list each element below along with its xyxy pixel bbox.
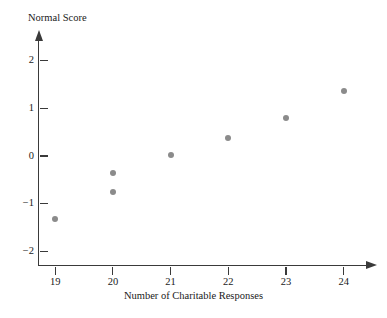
data-point (52, 216, 58, 222)
data-point (110, 170, 116, 176)
x-axis-tick-label: 21 (156, 277, 186, 288)
x-axis-tick-mark (228, 267, 229, 275)
data-point (225, 135, 231, 141)
y-axis-tick-label: 2 (8, 55, 34, 66)
y-axis-tick-mark (40, 251, 48, 252)
y-axis-tick-label: 1 (8, 103, 34, 114)
x-axis-line (38, 265, 368, 266)
y-axis-tick-label: 0 (8, 151, 34, 162)
x-axis-title: Number of Charitable Responses (0, 290, 387, 301)
y-axis-arrow-icon (35, 30, 43, 41)
x-axis-tick-label: 20 (98, 277, 128, 288)
y-axis-title: Normal Score (28, 12, 87, 23)
x-axis-tick-label: 24 (329, 277, 359, 288)
data-point (110, 189, 116, 195)
data-point (341, 88, 347, 94)
x-axis-tick-mark (343, 267, 344, 275)
x-axis-tick-label: 23 (271, 277, 301, 288)
x-axis-arrow-icon (366, 261, 377, 269)
y-axis-tick-mark (40, 60, 48, 61)
y-axis-tick-mark (40, 155, 48, 156)
y-axis-tick-label: −1 (8, 198, 34, 209)
y-axis-tick-label: −2 (8, 246, 34, 257)
scatter-plot-figure: Normal Score 210−1−2 192021222324 Number… (0, 0, 387, 318)
x-axis-tick-mark (170, 267, 171, 275)
y-axis-line (38, 40, 39, 266)
data-point (168, 152, 174, 158)
x-axis-tick-label: 19 (40, 277, 70, 288)
y-axis-tick-mark (40, 203, 48, 204)
x-axis-tick-mark (285, 267, 286, 275)
x-axis-tick-mark (112, 267, 113, 275)
data-point (283, 115, 289, 121)
x-axis-tick-mark (55, 267, 56, 275)
x-axis-tick-label: 22 (213, 277, 243, 288)
y-axis-tick-mark (40, 108, 48, 109)
